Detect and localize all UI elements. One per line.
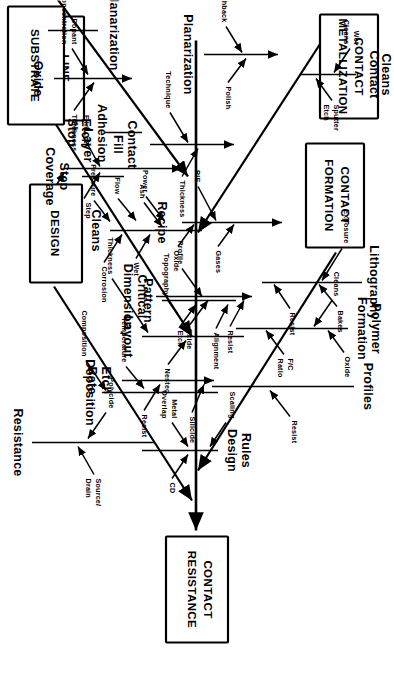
bone-etch-rate: Etch Rate Resist Silicide xyxy=(85,366,214,443)
bone-label-oxide-substrate: Oxide xyxy=(31,60,45,96)
cause-sputter-etch-2: Etch xyxy=(322,104,331,120)
cause-resist-cd: Resist xyxy=(226,330,235,353)
cause-cd: CD xyxy=(168,482,177,493)
cm-label-line1: CONTACT xyxy=(353,37,365,95)
bone-label-contactfill-2: Fill xyxy=(111,135,125,154)
bone-polymer-formation: Polymer Formation Cleans F/C Ratio Oxide xyxy=(236,271,383,377)
cause-dopant-2: Concentration xyxy=(60,0,69,44)
bone-label-recipe: Recipe xyxy=(155,201,169,243)
cause-resist-profiles: Resist xyxy=(290,420,299,443)
cause-fc-ratio-2: Ratio xyxy=(276,358,285,377)
cause-rie: RIE xyxy=(193,169,202,182)
cause-technique: Technique xyxy=(164,71,173,108)
cause-thickness-cf: Thickness xyxy=(178,180,187,217)
cf-label-line2: FORMATION xyxy=(323,159,335,231)
cause-scaling: Scaling xyxy=(228,391,237,418)
cause-source-1: Source/ xyxy=(94,478,103,506)
cause-wet-cleans-1: Wet xyxy=(352,30,361,44)
cause-wet: Wet xyxy=(132,262,141,276)
cause-resist-litho: Resist xyxy=(288,312,297,335)
bone-label-deposition: Deposition xyxy=(83,359,97,426)
bone-label-etchstop-1: Etch xyxy=(79,118,93,146)
cause-fc-ratio-1: F/C xyxy=(286,358,295,370)
fishbone-diagram-page: CONTACT RESISTANCE CONTACT FORMATION Lit… xyxy=(0,0,394,699)
head-label-line1: CONTACT xyxy=(202,560,214,618)
bone-label-polymer-2: Formation xyxy=(355,297,369,360)
bone-label-designrules-1: Design xyxy=(225,429,239,472)
cause-polish: Polish xyxy=(224,86,233,109)
cause-oxide-polymer: Oxide xyxy=(343,356,352,377)
cause-etch-pattern: Etch xyxy=(176,330,185,346)
bone-design-rules: Design Rules CD Metal Overlap Scaling xyxy=(142,390,253,493)
cause-metal-overlap-2: Overlap xyxy=(160,390,169,419)
fishbone-canvas: CONTACT RESISTANCE CONTACT FORMATION Lit… xyxy=(0,0,394,699)
cause-temperature: Temperature xyxy=(120,317,129,362)
cause-profile: Profile xyxy=(176,240,185,264)
effect-head-box: CONTACT RESISTANCE xyxy=(166,536,228,642)
cause-source-2: Drain xyxy=(84,478,93,497)
design-label: DESIGN xyxy=(49,210,61,257)
cause-flow: Flow xyxy=(113,177,122,194)
cause-metal-overlap-1: Metal xyxy=(170,399,179,418)
bone-label-contactfill-1: Contact xyxy=(125,120,139,169)
cause-ash: Ash xyxy=(138,184,147,198)
cause-gases: Gases xyxy=(214,250,223,273)
bone-label-stepcoverage-2: Coverage xyxy=(43,147,57,206)
cause-wet-cleans-2: Cleans xyxy=(342,19,351,44)
bone-label-planarization-substrate: Planarization xyxy=(107,0,121,70)
bone-label-resistance: Resistance xyxy=(11,408,25,476)
cause-corrosion: Corrosion xyxy=(100,266,109,302)
cause-topography: Topography xyxy=(162,253,171,296)
cause-etchback: Etchback xyxy=(220,0,229,22)
cause-exposure: Exposure xyxy=(342,209,351,243)
bone-label-designrules-2: Rules xyxy=(239,432,253,467)
bone-label-cleans-lm: Cleans xyxy=(89,209,103,251)
cause-silicide: Silicide xyxy=(188,416,197,443)
head-label-line2: RESISTANCE xyxy=(186,550,198,627)
bone-label-planarization-cm: Planarization xyxy=(181,14,195,94)
cause-alignment: Alignment xyxy=(212,332,221,369)
bone-label-stepcoverage-1: Step xyxy=(57,162,71,190)
cause-sputter-etch-1: Sputter xyxy=(332,104,341,131)
cause-cleans-polymer: Cleans xyxy=(332,271,341,296)
bone-label-pattern: Pattern xyxy=(141,278,155,322)
cause-composition: Composition xyxy=(80,310,89,356)
bone-label-polymer-1: Polymer xyxy=(369,303,383,354)
cause-thickness-oxide: Thickness xyxy=(70,114,79,151)
bone-label-profiles: Profiles xyxy=(361,362,375,409)
bone-label-contactcleans-2: Cleans xyxy=(379,53,393,95)
bone-contact-fill: Contact Fill Technique Thickness xyxy=(111,71,234,217)
